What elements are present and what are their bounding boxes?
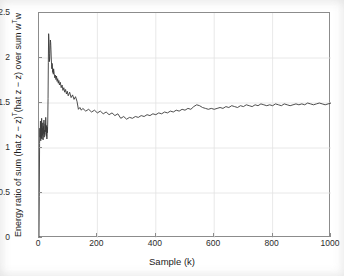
x-tick-mark bbox=[96, 233, 97, 237]
y-tick-label: 2 bbox=[5, 53, 10, 61]
y-tick-label: 0.5 bbox=[0, 188, 10, 196]
horizontal-gridlines bbox=[39, 58, 331, 193]
data-line-energy-ratio bbox=[39, 13, 331, 238]
chart-figure: 00.511.522.5 02004006008001000 Sample (k… bbox=[0, 0, 344, 276]
y-tick-label: 0 bbox=[5, 233, 10, 241]
x-tick-label: 0 bbox=[13, 239, 63, 248]
x-tick-mark bbox=[155, 233, 156, 237]
y-tick-mark bbox=[38, 12, 42, 13]
x-tick-label: 200 bbox=[71, 239, 121, 248]
x-tick-label: 800 bbox=[247, 239, 297, 248]
y-tick-label: 1.5 bbox=[0, 98, 10, 106]
series-polyline bbox=[39, 34, 331, 238]
x-tick-label: 1000 bbox=[305, 239, 344, 248]
y-tick-mark bbox=[38, 102, 42, 103]
ylabel-post: w bbox=[13, 13, 23, 20]
y-tick-mark bbox=[38, 192, 42, 193]
y-axis-label: Energy ratio of sum (hat z − z)T(hat z −… bbox=[12, 0, 25, 250]
y-tick-mark bbox=[38, 147, 42, 148]
x-axis-label: Sample (k) bbox=[0, 256, 344, 267]
x-tick-label: 400 bbox=[130, 239, 180, 248]
x-tick-mark bbox=[272, 233, 273, 237]
ylabel-pre: Energy ratio of sum (hat z − z) bbox=[13, 116, 23, 237]
x-tick-mark bbox=[330, 233, 331, 237]
y-tick-mark bbox=[38, 57, 42, 58]
plot-area bbox=[38, 12, 330, 237]
x-tick-label: 600 bbox=[188, 239, 238, 248]
y-axis-label-wrapper: Energy ratio of sum (hat z − z)T(hat z −… bbox=[12, 0, 26, 250]
ylabel-mid: (hat z − z) over sum w bbox=[13, 23, 23, 112]
y-tick-label: 2.5 bbox=[0, 8, 10, 16]
vertical-gridlines bbox=[97, 13, 272, 238]
ylabel-sup-transpose-2: T bbox=[11, 19, 18, 23]
x-tick-mark bbox=[213, 233, 214, 237]
ylabel-sup-transpose-1: T bbox=[11, 112, 18, 116]
x-tick-mark bbox=[38, 233, 39, 237]
y-tick-label: 1 bbox=[5, 143, 10, 151]
